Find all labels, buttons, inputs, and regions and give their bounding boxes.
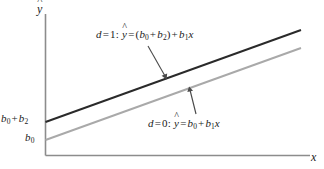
x-axis-label-text: x xyxy=(311,150,317,164)
equals-operator-2: = xyxy=(179,117,187,129)
annotation-label-d1: d=1: ^y=(b0+b2)+b1x xyxy=(96,28,194,42)
y-axis-label: ^y xyxy=(37,2,43,17)
tick-label-intercept-base: b0 xyxy=(25,131,34,145)
annotation-label-d0: d=0: ^y=b0+b1x xyxy=(148,117,220,131)
plot-canvas xyxy=(0,0,324,169)
b0-subscript: 0 xyxy=(31,136,35,145)
b2-subscript: 2 xyxy=(25,117,29,126)
equals-operator-2: = xyxy=(127,28,135,40)
close-paren: ) xyxy=(167,28,171,40)
tick-label-intercept-combined: b0+b2 xyxy=(1,112,28,126)
equals-operator: = xyxy=(154,117,162,129)
x-axis-label: x xyxy=(311,150,317,165)
plus-operator-2: + xyxy=(171,28,179,40)
plus-operator: + xyxy=(149,28,157,40)
colon: : xyxy=(116,28,119,40)
y-hat-mark: ^ xyxy=(37,0,42,6)
d-symbol: d xyxy=(96,28,102,40)
x-symbol: x xyxy=(188,28,193,40)
equals-operator: = xyxy=(102,28,110,40)
regression-line-d1 xyxy=(46,30,302,122)
annotation-arrow-d1 xyxy=(148,46,167,80)
x-symbol: x xyxy=(215,117,220,129)
colon: : xyxy=(168,117,171,129)
plus-operator: + xyxy=(10,112,18,124)
d-symbol: d xyxy=(148,117,154,129)
y-hat-mark: ^ xyxy=(122,22,127,32)
y-hat-mark: ^ xyxy=(174,111,179,121)
regression-lines-figure: ^y x b0+b2 b0 d=1: ^y=(b0+b2)+b1x d=0: ^… xyxy=(0,0,324,169)
annotation-arrow-d0 xyxy=(187,87,196,115)
